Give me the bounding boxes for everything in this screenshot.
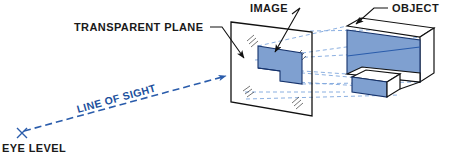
object-label: OBJECT (392, 2, 439, 14)
line-of-sight-group: EYE LEVEL LINE OF SIGHT (2, 76, 226, 154)
transparent-plane-label: TRANSPARENT PLANE (74, 21, 203, 33)
line-of-sight-arrow (24, 76, 226, 131)
eye-level-label: EYE LEVEL (2, 142, 66, 154)
eye-level-x-icon (17, 128, 27, 138)
image-label: IMAGE (250, 2, 288, 14)
diagram-canvas: EYE LEVEL LINE OF SIGHT TRANSPARENT PLAN… (0, 0, 452, 164)
projection-diagram: EYE LEVEL LINE OF SIGHT TRANSPARENT PLAN… (0, 0, 452, 164)
object-lower-edge (400, 82, 420, 89)
object-right-face (420, 28, 434, 82)
